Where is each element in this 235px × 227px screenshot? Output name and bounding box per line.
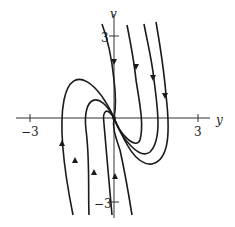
y-tick-label-neg: −3: [94, 197, 112, 211]
x-axis-label: y: [215, 113, 223, 127]
arrow-up-icon: [72, 157, 78, 163]
x-tick-label-pos: 3: [194, 125, 202, 139]
equilibrium-point: [112, 116, 116, 120]
arrow-up-icon: [91, 169, 97, 175]
trajectory-3: [85, 24, 158, 215]
phase-portrait-figure: y v −3 3 3 −3: [0, 0, 235, 227]
x-tick-label-neg: −3: [21, 125, 39, 139]
trajectory-2: [104, 25, 142, 215]
arrow-up-icon: [112, 173, 118, 179]
arrow-up-icon: [59, 140, 65, 146]
arrow-down-icon: [150, 75, 156, 81]
trajectory-1: [102, 24, 132, 215]
y-axis-label: v: [110, 7, 117, 21]
